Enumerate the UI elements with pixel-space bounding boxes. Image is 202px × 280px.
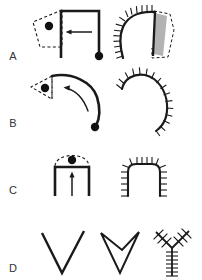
figure-svg: A [0, 0, 202, 280]
figure-container: A [0, 0, 202, 280]
triangle-dot [41, 84, 49, 92]
cap-dot [68, 156, 76, 164]
arc-terminus-dot [91, 123, 99, 131]
row-label-b: B [9, 117, 16, 129]
row-label-a: A [9, 50, 17, 62]
row-label-c: C [9, 184, 17, 196]
wedge-dot [45, 22, 53, 30]
row-label-d: D [9, 262, 17, 274]
terminus-dot [95, 52, 103, 60]
